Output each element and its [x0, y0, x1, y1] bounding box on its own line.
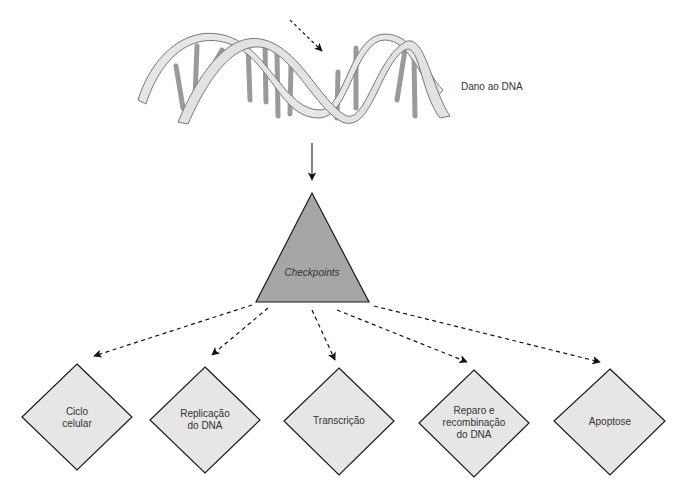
edge-to-apoptose: [374, 306, 600, 362]
node-apoptose-line-1: Apoptose: [565, 416, 655, 428]
edge-to-ciclo: [94, 305, 252, 356]
checkpoints-triangle[interactable]: [256, 193, 369, 302]
node-transcricao-label: Transcrição: [294, 415, 384, 427]
damage-arrow: [290, 20, 322, 51]
node-ciclo-label: Ciclo celular: [32, 406, 122, 430]
dna-damage-label: Dano ao DNA: [461, 81, 523, 93]
node-replicacao-line-1: Replicação: [160, 408, 250, 420]
node-reparo-label: Reparo e recombinação do DNA: [429, 405, 519, 441]
node-reparo-line-2: recombinação: [429, 417, 519, 429]
checkpoints-label: Checkpoints: [272, 267, 352, 279]
node-transcricao-line-1: Transcrição: [294, 415, 384, 427]
edge-to-transcricao: [312, 310, 335, 360]
node-reparo-line-1: Reparo e: [429, 405, 519, 417]
node-replicacao-label: Replicação do DNA: [160, 408, 250, 432]
dna-helix-icon: [138, 33, 450, 124]
node-apoptose-label: Apoptose: [565, 416, 655, 428]
node-replicacao-line-2: do DNA: [160, 420, 250, 432]
node-ciclo-line-1: Ciclo: [32, 406, 122, 418]
node-ciclo-line-2: celular: [32, 418, 122, 430]
checkpoint-edges: [94, 305, 600, 362]
node-reparo-line-3: do DNA: [429, 429, 519, 441]
edge-to-reparo: [337, 310, 467, 362]
